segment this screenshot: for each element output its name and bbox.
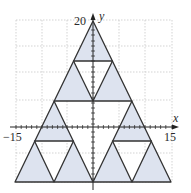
plot-canvas: 20 y x −15 15	[0, 0, 191, 193]
sierpinski-figure: 20 y x −15 15	[0, 0, 191, 193]
y-max-tick-label: 20	[74, 14, 86, 28]
x-min-tick-label: −15	[3, 130, 22, 144]
y-axis-label: y	[98, 9, 105, 23]
x-max-tick-label: 15	[164, 130, 176, 144]
x-axis-label: x	[172, 111, 179, 125]
y-axis-arrow-icon	[91, 13, 96, 20]
x-axis-arrow-icon	[172, 125, 179, 130]
